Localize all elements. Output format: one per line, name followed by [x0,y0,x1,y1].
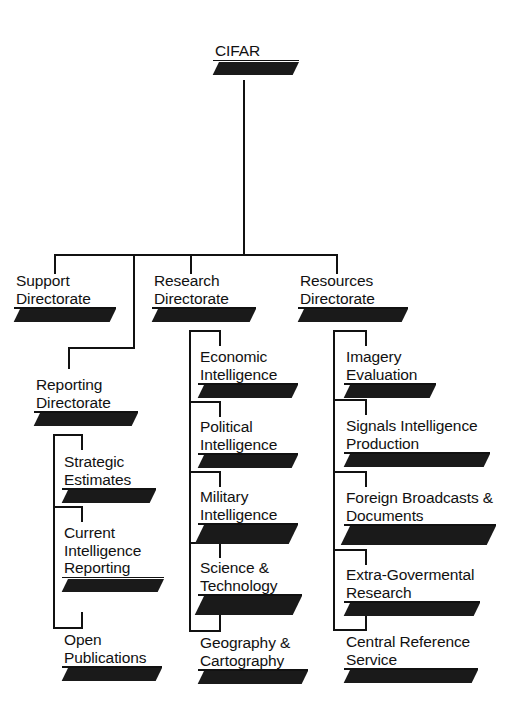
node-foreign-broadcasts-documents-label: Foreign Broadcasts & Documents [344,489,496,524]
node-military-intelligence[interactable]: Military Intelligence [198,488,298,544]
node-reporting-directorate-slab [34,413,138,426]
node-extra-govermental-research-slab [344,603,480,616]
node-signals-intelligence-production-slab [344,454,490,467]
node-cifar[interactable]: CIFAR [213,42,299,75]
node-research-directorate[interactable]: Research Directorate [152,272,256,322]
node-military-intelligence-slab [195,525,298,544]
branch-current [53,506,83,508]
node-strategic-estimates-slab [62,490,156,503]
node-geography-cartography-label: Geography & Cartography [198,634,308,669]
branch-signals [333,399,367,401]
branch-strategic-stem [81,434,83,450]
branch-centralref [333,629,367,631]
node-military-intelligence-label: Military Intelligence [198,488,298,523]
node-research-directorate-slab [152,309,256,322]
node-current-intelligence-reporting[interactable]: Current Intelligence Reporting [62,524,164,592]
node-current-intelligence-reporting-label: Current Intelligence Reporting [62,524,164,577]
branch-economic [189,330,221,332]
connector-to-reporting-drop [133,254,135,348]
branch-openpub-stem [81,612,83,629]
connector-to-support [54,254,56,274]
node-strategic-estimates[interactable]: Strategic Estimates [62,453,156,503]
node-imagery-evaluation-slab [344,385,436,398]
connector-root-stem [243,80,245,256]
node-support-directorate[interactable]: Support Directorate [14,272,116,322]
branch-military-stem [219,471,221,487]
spine-reporting [53,434,55,629]
branch-foreign-stem [365,471,367,487]
connector-to-research [190,254,192,274]
branch-economic-stem [219,330,221,346]
branch-science-stem [219,542,221,558]
node-economic-intelligence-label: Economic Intelligence [198,348,298,383]
connector-to-reporting-elbow [68,347,135,349]
node-open-publications-label: Open Publications [62,631,162,666]
node-geography-cartography-slab [198,671,308,684]
node-science-technology-label: Science & Technology [198,559,302,594]
connector-to-reporting-stem [68,347,70,369]
spine-research [189,330,191,632]
node-reporting-directorate[interactable]: Reporting Directorate [34,376,138,426]
node-strategic-estimates-label: Strategic Estimates [62,453,156,488]
node-resources-directorate-slab [298,309,408,322]
node-extra-govermental-research-label: Extra-Govermental Research [344,566,480,601]
branch-military [189,471,221,473]
node-current-intelligence-reporting-slab [62,579,164,592]
node-cifar-slab [213,62,299,75]
node-imagery-evaluation[interactable]: Imagery Evaluation [344,348,436,398]
branch-strategic [53,434,83,436]
node-cifar-rule [213,60,299,62]
branch-foreign [333,471,367,473]
node-reporting-directorate-label: Reporting Directorate [34,376,138,411]
node-central-reference-service[interactable]: Central Reference Service [344,633,478,683]
node-science-technology[interactable]: Science & Technology [198,559,302,615]
node-economic-intelligence[interactable]: Economic Intelligence [198,348,298,398]
branch-political [189,401,221,403]
branch-political-stem [219,401,221,417]
node-open-publications-slab [62,668,162,681]
node-signals-intelligence-production-label: Signals Intelligence Production [344,417,490,452]
node-support-directorate-label: Support Directorate [14,272,116,307]
branch-geography [189,630,221,632]
node-current-intelligence-reporting-rule [62,577,164,579]
connector-to-resources [336,254,338,274]
branch-geography-stem [219,614,221,632]
node-economic-intelligence-slab [198,385,298,398]
branch-extragov-stem [365,549,367,565]
node-political-intelligence[interactable]: Political Intelligence [198,418,298,468]
node-signals-intelligence-production[interactable]: Signals Intelligence Production [344,417,490,467]
branch-openpub [53,627,83,629]
node-political-intelligence-slab [198,455,298,468]
node-political-intelligence-label: Political Intelligence [198,418,298,453]
node-open-publications[interactable]: Open Publications [62,631,162,681]
node-support-directorate-slab [14,309,116,322]
branch-current-stem [81,506,83,522]
node-foreign-broadcasts-documents-slab [341,526,496,545]
node-central-reference-service-label: Central Reference Service [344,633,478,668]
node-geography-cartography[interactable]: Geography & Cartography [198,634,308,684]
connector-trunk [54,254,338,256]
branch-signals-stem [365,399,367,415]
node-cifar-label: CIFAR [213,42,299,60]
node-resources-directorate[interactable]: Resources Directorate [298,272,408,322]
node-research-directorate-label: Research Directorate [152,272,256,307]
branch-imagery-stem [365,330,367,346]
node-central-reference-service-slab [344,670,478,683]
branch-imagery [333,330,367,332]
node-science-technology-slab [195,596,302,615]
org-chart: CIFAR Support Directorate Research Direc… [0,0,530,718]
node-foreign-broadcasts-documents[interactable]: Foreign Broadcasts & Documents [344,489,496,545]
node-extra-govermental-research[interactable]: Extra-Govermental Research [344,566,480,616]
node-imagery-evaluation-label: Imagery Evaluation [344,348,436,383]
branch-extragov [333,549,367,551]
spine-resources [333,330,335,630]
node-resources-directorate-label: Resources Directorate [298,272,408,307]
